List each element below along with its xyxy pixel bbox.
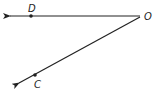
angle-diagram: D O C	[0, 0, 154, 92]
label-o: O	[144, 11, 152, 22]
point-d-dot	[29, 14, 33, 18]
ray-oc	[19, 17, 140, 83]
point-c-dot	[33, 73, 37, 77]
label-d: D	[28, 3, 36, 14]
label-c: C	[34, 79, 41, 90]
diagram-canvas: D O C	[0, 0, 154, 92]
